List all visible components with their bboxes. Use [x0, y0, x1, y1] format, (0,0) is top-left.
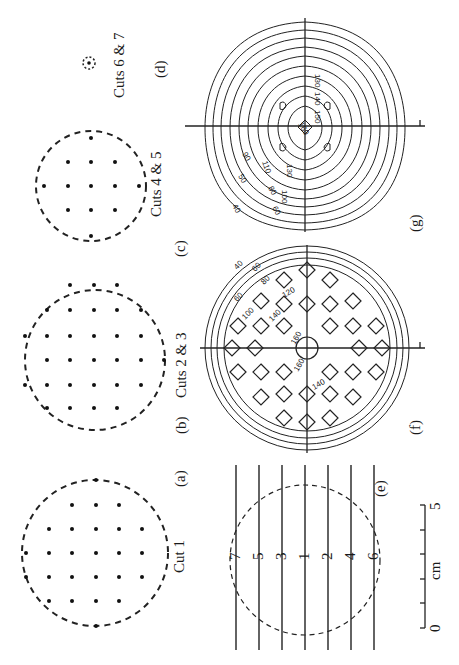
- contour-label-80: 80: [266, 185, 279, 198]
- scale-bar-start-label: 0: [427, 625, 443, 633]
- cut-number-7: 7: [227, 552, 243, 560]
- cut-number-4: 4: [342, 552, 358, 560]
- panel-e-label: (e): [372, 480, 389, 497]
- figure-panel-layout: Cut 1 (a) Cuts 2 & 3 (b) Cuts 4 & 5 (c): [0, 0, 459, 665]
- panel-c-label: (c): [172, 240, 189, 257]
- contour-label-40: 40: [232, 258, 245, 271]
- panel-f-contour-map: 40 60 60 80 100 120 140 140 160 160 (f): [200, 245, 425, 453]
- contour-label-100: 100: [240, 305, 256, 321]
- contour-label-80: 80: [259, 273, 272, 286]
- contour-label-50: 50: [236, 173, 249, 186]
- contour-label-110: 110: [260, 160, 273, 176]
- panel-d-dot-pattern: Cuts 6 & 7 (d): [83, 32, 169, 98]
- panel-f-label: (f): [407, 420, 424, 435]
- cut-number-3: 3: [273, 553, 289, 561]
- panel-g-label: (g): [407, 215, 424, 233]
- cut-number-1: 1: [296, 553, 312, 561]
- contour-label-140: 140: [311, 377, 328, 392]
- contour-label-60: 60: [232, 290, 245, 303]
- cut-number-5: 5: [250, 553, 266, 561]
- scale-bar-end-label: 5: [427, 503, 443, 511]
- scale-bar-unit-label: cm: [427, 561, 443, 580]
- contour-label-100: 100: [280, 190, 289, 204]
- panel-d-caption: Cuts 6 & 7: [111, 32, 127, 98]
- contour-label-130: 130: [313, 74, 322, 88]
- panel-a-dot-pattern: Cut 1 (a): [22, 470, 189, 628]
- panel-g-contour-map: 40 50 60 80 90 100 110 130 130 140 150 1…: [185, 18, 425, 232]
- contour-label-60: 60: [270, 205, 283, 218]
- panel-c-caption: Cuts 4 & 5: [148, 152, 164, 217]
- cut-number-6: 6: [365, 552, 381, 560]
- panel-c-dot-pattern: Cuts 4 & 5 (c): [36, 131, 189, 257]
- panel-a-caption: Cut 1: [171, 540, 187, 573]
- contour-label-40: 40: [230, 203, 243, 216]
- contour-label-140: 140: [313, 92, 322, 106]
- panel-b-dot-pattern: Cuts 2 & 3 (b): [23, 283, 190, 434]
- contour-label-130: 130: [285, 164, 294, 178]
- cut-number-2: 2: [319, 553, 335, 561]
- panel-b-caption: Cuts 2 & 3: [173, 333, 189, 398]
- scale-bar: 5 cm 0: [420, 503, 443, 633]
- panel-a-label: (a): [172, 470, 189, 487]
- panel-e-cut-lines: 7 5 3 1 2 4 6 (e): [227, 465, 389, 650]
- panel-b-label: (b): [173, 417, 190, 435]
- panel-d-label: (d): [152, 61, 169, 79]
- contour-label-160: 160: [296, 121, 311, 138]
- contour-label-150: 150: [313, 110, 322, 124]
- contour-label-160: 160: [289, 329, 304, 346]
